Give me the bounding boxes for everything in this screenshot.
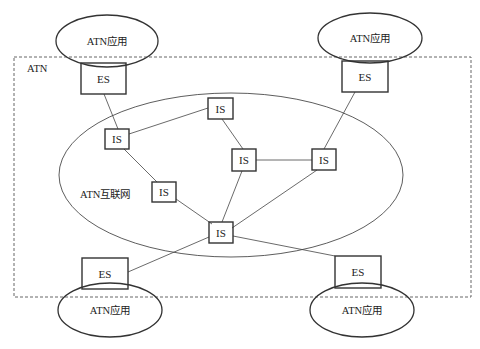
link-is-left-to-is-lower-left bbox=[124, 149, 157, 182]
is-label: IS bbox=[216, 103, 226, 115]
node-es-top-left: ES bbox=[81, 63, 126, 94]
es-label: ES bbox=[97, 73, 110, 85]
link-is-lower-left-to-is-bottom bbox=[176, 199, 212, 224]
es-label: ES bbox=[359, 71, 372, 83]
is-label: IS bbox=[159, 186, 169, 198]
node-es-bottom-left: ES bbox=[82, 258, 128, 289]
link-is-center-to-is-bottom bbox=[222, 171, 242, 222]
node-is-right: IS bbox=[312, 149, 336, 170]
link-es-top-left-to-is-left bbox=[104, 94, 118, 129]
is-label: IS bbox=[239, 154, 249, 166]
is-label: IS bbox=[319, 154, 329, 166]
application-top-left: ATN应用 bbox=[56, 15, 158, 67]
node-is-bottom: IS bbox=[209, 222, 233, 243]
atn-network-diagram: ATN ATN互联网 ATN应用 ATN应用 ATN应用 ATN应用 ESESE… bbox=[0, 0, 480, 349]
es-label: ES bbox=[352, 266, 365, 278]
is-label: IS bbox=[216, 227, 226, 239]
application-label: ATN应用 bbox=[342, 304, 382, 316]
application-top-right: ATN应用 bbox=[318, 13, 422, 63]
atn-internet-ellipse bbox=[59, 93, 403, 257]
atn-internet-label: ATN互联网 bbox=[80, 189, 130, 200]
link-is-right-to-is-bottom bbox=[232, 170, 317, 228]
link-is-bottom-to-es-bottom-left bbox=[128, 237, 209, 272]
node-is-center: IS bbox=[232, 149, 256, 171]
link-is-top-to-is-center bbox=[222, 119, 243, 149]
node-es-top-right: ES bbox=[342, 61, 388, 92]
nodes-group: ESESESESISISISISISIS bbox=[81, 61, 388, 289]
node-is-left: IS bbox=[105, 129, 129, 149]
application-label: ATN应用 bbox=[90, 304, 130, 316]
node-is-lower-left: IS bbox=[152, 182, 176, 202]
link-is-right-to-es-top-right bbox=[324, 92, 355, 149]
application-bottom-right: ATN应用 bbox=[310, 283, 414, 337]
node-is-top: IS bbox=[208, 98, 233, 119]
atn-boundary-label: ATN bbox=[27, 63, 48, 74]
application-label: ATN应用 bbox=[350, 32, 390, 44]
link-is-left-to-is-top bbox=[129, 108, 208, 134]
is-label: IS bbox=[112, 133, 122, 145]
es-label: ES bbox=[99, 268, 112, 280]
application-bottom-left: ATN应用 bbox=[58, 283, 162, 337]
application-label: ATN应用 bbox=[87, 35, 127, 47]
